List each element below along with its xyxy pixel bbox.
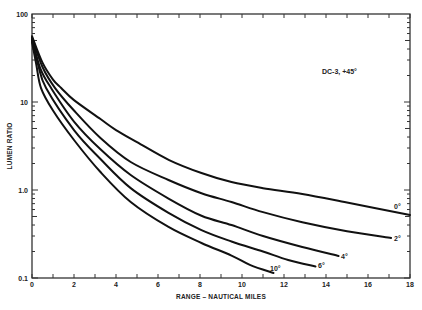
curve-label-2deg: 2° [394,235,401,242]
curve-label-6deg: 6° [318,262,325,269]
x-axis-title: RANGE – NAUTICAL MILES [176,293,266,300]
x-tick-label: 6 [156,281,160,288]
x-tick-label: 8 [198,281,202,288]
y-tick-label: 100 [16,11,28,18]
lumen-ratio-chart: 024681012141618 100101.00.1 0° 2° 4° 6° … [0,0,422,310]
x-tick-label: 10 [238,281,246,288]
x-tick-label: 4 [114,281,118,288]
x-tick-label: 18 [406,281,414,288]
chart-background [0,0,422,310]
aircraft-annotation: DC-3, +45° [322,68,357,76]
y-tick-label: 10 [20,99,28,106]
x-tick-label: 2 [72,281,76,288]
x-tick-label: 14 [322,281,330,288]
x-tick-label: 0 [30,281,34,288]
x-tick-label: 16 [364,281,372,288]
curve-label-10deg: 10° [270,265,281,272]
y-tick-label: 1.0 [18,187,28,194]
x-tick-label: 12 [280,281,288,288]
curve-label-0deg: 0° [394,203,401,210]
y-axis-title: LUMEN RATIO [6,123,13,170]
y-tick-label: 0.1 [18,275,28,282]
curve-label-4deg: 4° [341,253,348,260]
